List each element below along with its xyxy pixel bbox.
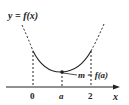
curve-right-dashed	[91, 24, 104, 51]
curve-solid	[33, 51, 91, 72]
x-axis-arrow-icon	[113, 85, 120, 90]
tick-label-2: 2	[88, 91, 93, 101]
tick-label-0: 0	[30, 91, 35, 101]
tick-label-a: a	[59, 91, 64, 101]
function-label: y = f(x)	[7, 10, 38, 22]
point-label: m = f(a)	[78, 70, 108, 80]
curve-left-dashed	[22, 25, 33, 51]
point-leader	[63, 73, 77, 75]
x-axis-label: x	[112, 91, 118, 102]
function-diagram: y = f(x) m = f(a) 0 a 2 x	[0, 0, 129, 105]
